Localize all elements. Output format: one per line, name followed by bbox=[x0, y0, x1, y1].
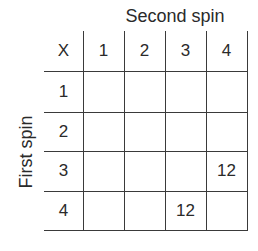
column-header: 1 bbox=[83, 31, 124, 71]
table-cell bbox=[83, 112, 124, 151]
table-cell bbox=[206, 112, 247, 151]
table-cell bbox=[83, 151, 124, 191]
table-cell bbox=[206, 71, 247, 112]
table-cell: 12 bbox=[165, 191, 206, 230]
table-cell bbox=[165, 151, 206, 191]
corner-operator-label: X bbox=[44, 31, 83, 71]
table-cell bbox=[124, 151, 165, 191]
grid-vertical-line bbox=[247, 31, 248, 231]
row-header: 1 bbox=[44, 71, 83, 112]
table-cell bbox=[124, 191, 165, 230]
row-header: 2 bbox=[44, 112, 83, 151]
grid-horizontal-line bbox=[44, 230, 248, 231]
table-cell bbox=[83, 71, 124, 112]
column-axis-title: Second spin bbox=[100, 6, 250, 27]
table-cell bbox=[83, 191, 124, 230]
table-cell bbox=[165, 71, 206, 112]
row-header: 4 bbox=[44, 191, 83, 230]
table-cell: 12 bbox=[206, 151, 247, 191]
row-axis-title: First spin bbox=[16, 115, 37, 188]
column-header: 3 bbox=[165, 31, 206, 71]
table-cell bbox=[206, 191, 247, 230]
table-cell bbox=[124, 71, 165, 112]
table-cell bbox=[165, 112, 206, 151]
column-header: 4 bbox=[206, 31, 247, 71]
table-cell bbox=[124, 112, 165, 151]
row-header: 3 bbox=[44, 151, 83, 191]
column-header: 2 bbox=[124, 31, 165, 71]
